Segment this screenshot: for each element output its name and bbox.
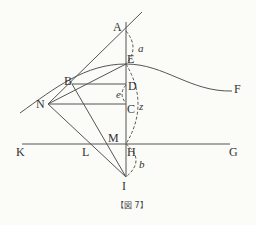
label-I: I (122, 179, 126, 193)
label-B: B (64, 74, 72, 88)
label-D: D (128, 79, 137, 93)
label-e: e (116, 88, 121, 100)
label-C: C (127, 102, 135, 116)
label-N: N (36, 97, 45, 111)
label-z: z (138, 100, 144, 112)
label-A: A (113, 20, 122, 34)
label-G: G (229, 145, 238, 159)
figure-caption: 【図 7】 (116, 201, 148, 210)
label-H: H (127, 145, 136, 159)
label-a: a (138, 42, 144, 54)
geometry-diagram: A E D C H I B N M L K G F a e z b 【図 7】 (0, 0, 256, 225)
label-K: K (16, 145, 25, 159)
label-b: b (139, 158, 145, 170)
arc-e (122, 85, 126, 103)
label-F: F (234, 82, 241, 96)
label-L: L (82, 145, 89, 159)
label-M: M (108, 131, 119, 145)
label-E: E (127, 52, 134, 66)
